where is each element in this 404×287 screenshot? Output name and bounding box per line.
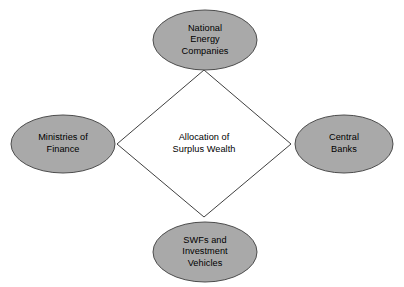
node-shape-central-banks[interactable] [295,115,393,173]
node-shape-swfs-investment-vehicles[interactable] [153,222,257,282]
node-shape-national-energy-companies[interactable] [153,10,257,70]
center-diamond-shape[interactable] [117,70,291,217]
diagram-canvas: Allocation of Surplus Wealth National En… [0,0,404,287]
node-shape-ministries-of-finance[interactable] [11,115,115,173]
diagram-shapes [0,0,404,287]
